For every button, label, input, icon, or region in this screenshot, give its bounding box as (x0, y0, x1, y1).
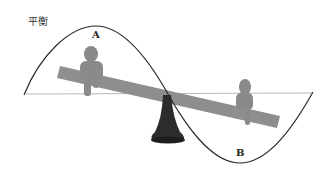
balance-diagram: 平衡 A B (0, 0, 330, 177)
point-a-label: A (92, 29, 100, 40)
person-a-figure (80, 46, 103, 96)
diagram-graphic (0, 0, 330, 177)
point-b-label: B (236, 147, 244, 158)
